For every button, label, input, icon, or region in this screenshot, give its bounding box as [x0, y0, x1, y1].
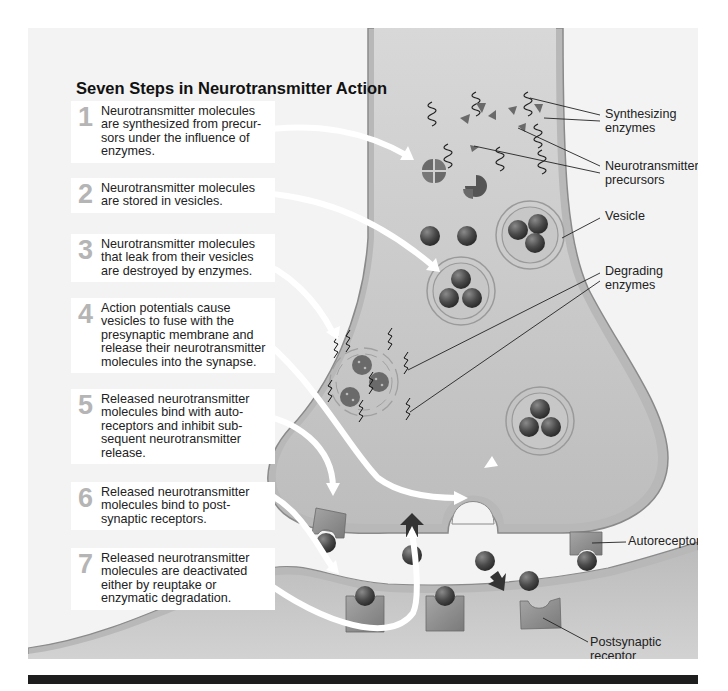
step-number: 4	[78, 299, 93, 329]
step-text-line: sequent neurotransmitter	[101, 433, 269, 446]
label-line: enzymes	[605, 279, 663, 293]
step-number: 1	[78, 102, 93, 132]
step-text-line: molecules bind to post-	[101, 499, 269, 512]
label-line: Autoreceptor	[628, 535, 698, 549]
label-synthesizing-enzymes: Synthesizing enzymes	[605, 108, 676, 135]
label-autoreceptor: Autoreceptor	[628, 535, 698, 549]
step-text-line: Neurotransmitter molecules	[101, 182, 269, 195]
step-text-line: Released neurotransmitter	[101, 486, 269, 499]
label-line: Neurotransmitter	[605, 160, 698, 174]
step-text-line: are destroyed by enzymes.	[101, 265, 269, 278]
step-number: 6	[78, 483, 93, 513]
label-line: Postsynaptic	[590, 636, 661, 650]
figure-panel: Seven Steps in Neurotransmitter Action 1…	[28, 28, 698, 659]
step-4: 4 Action potentials cause vesicles to fu…	[71, 298, 275, 373]
step-text-line: sors under the influence of	[101, 132, 269, 145]
step-text-line: Neurotransmitter molecules	[101, 105, 269, 118]
label-line: enzymes	[605, 122, 676, 136]
step-number: 3	[78, 235, 93, 265]
step-text-line: synaptic receptors.	[101, 513, 269, 526]
label-line: Synthesizing	[605, 108, 676, 122]
step-text-line: release.	[101, 447, 269, 460]
footer-bar	[28, 675, 698, 684]
step-text-line: vesicles to fuse with the	[101, 315, 269, 328]
step-text-line: molecules into the synapse.	[101, 356, 269, 369]
step-1: 1 Neurotransmitter molecules are synthes…	[71, 101, 275, 163]
step-7: 7 Released neurotransmitter molecules ar…	[71, 548, 275, 610]
step-text-line: Action potentials cause	[101, 302, 269, 315]
step-3: 3 Neurotransmitter molecules that leak f…	[71, 234, 275, 282]
vesicle-lower	[506, 387, 574, 455]
step-text-line: are synthesized from precur-	[101, 118, 269, 131]
step-5: 5 Released neurotransmitter molecules bi…	[71, 389, 275, 464]
step-2: 2 Neurotransmitter molecules are stored …	[71, 178, 275, 213]
step-text-line: receptors and inhibit sub-	[101, 420, 269, 433]
step-text-line: are stored in vesicles.	[101, 195, 269, 208]
step-number: 5	[78, 390, 93, 420]
label-line: Degrading	[605, 265, 663, 279]
label-line: precursors	[605, 174, 698, 188]
step-text-line: molecules are deactivated	[101, 565, 269, 578]
step-text-line: Released neurotransmitter	[101, 393, 269, 406]
figure-title: Seven Steps in Neurotransmitter Action	[76, 79, 387, 98]
step-text-line: either by reuptake or	[101, 579, 269, 592]
step-text-line: enzymatic degradation.	[101, 592, 269, 605]
step-text-line: release their neurotransmitter	[101, 342, 269, 355]
step-number: 2	[78, 179, 93, 209]
label-postsynaptic-receptor: Postsynaptic receptor	[590, 636, 661, 659]
step-text-line: enzymes.	[101, 145, 269, 158]
label-vesicle: Vesicle	[605, 210, 645, 224]
step-6: 6 Released neurotransmitter molecules bi…	[71, 482, 275, 530]
label-line: Vesicle	[605, 210, 645, 224]
step-number: 7	[78, 549, 93, 579]
label-neurotransmitter-precursors: Neurotransmitter precursors	[605, 160, 698, 187]
step-text-line: Neurotransmitter molecules	[101, 238, 269, 251]
autoreceptor-right	[570, 532, 602, 571]
step-text-line: Released neurotransmitter	[101, 552, 269, 565]
label-degrading-enzymes: Degrading enzymes	[605, 265, 663, 292]
step-text-line: molecules bind with auto-	[101, 406, 269, 419]
vesicle-upper	[496, 201, 564, 269]
step-text-line: presynaptic membrane and	[101, 329, 269, 342]
step-text-line: that leak from their vesicles	[101, 251, 269, 264]
label-line: receptor	[590, 650, 661, 659]
